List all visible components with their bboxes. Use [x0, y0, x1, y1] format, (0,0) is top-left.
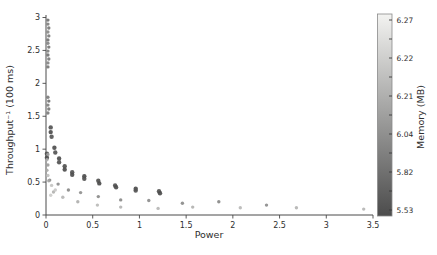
scatter-point	[46, 42, 49, 45]
scatter-point	[158, 191, 162, 195]
scatter-point	[156, 207, 159, 210]
colorbar-tick-label: 6.27	[397, 16, 414, 25]
scatter-point	[46, 53, 49, 56]
scatter-point	[265, 203, 268, 206]
scatter-point	[45, 169, 48, 172]
scatter-point	[46, 96, 49, 99]
colorbar-tick-label: 5.82	[397, 168, 414, 177]
colorbar-tick-label: 6.04	[397, 130, 414, 139]
scatter-point	[46, 38, 49, 41]
colorbar-tick-label: 5.53	[397, 206, 414, 215]
scatter-point	[46, 103, 49, 106]
scatter-point	[295, 206, 298, 209]
x-tick-label: 2	[230, 221, 235, 230]
scatter-point	[47, 179, 50, 182]
scatter-point	[46, 22, 49, 25]
scatter-point	[57, 156, 61, 160]
colorbar-tick-label: 6.22	[397, 54, 414, 63]
scatter-point	[82, 177, 86, 181]
scatter-point	[49, 130, 53, 134]
x-tick-label: 3	[324, 221, 329, 230]
scatter-point	[61, 196, 64, 199]
colorbar-tick-label: 6.21	[397, 92, 414, 101]
scatter-point	[114, 185, 118, 189]
scatter-point	[76, 200, 79, 203]
scatter-point	[47, 26, 50, 29]
y-axis-label: Throughput⁻¹ (100 ms)	[4, 65, 15, 176]
scatter-point	[46, 61, 49, 64]
y-tick-label: 0.5	[27, 178, 40, 187]
scatter-point	[79, 191, 82, 194]
y-tick-label: 0	[35, 211, 40, 220]
x-axis: 00.511.522.533.5	[43, 215, 379, 230]
y-axis: 00.511.522.53	[27, 13, 46, 220]
scatter-point	[46, 153, 49, 156]
scatter-point	[239, 206, 242, 209]
scatter-point	[119, 198, 122, 201]
scatter-point	[47, 45, 50, 48]
x-axis-label: Power	[195, 229, 224, 240]
scatter-point	[47, 34, 50, 37]
y-tick-label: 2.5	[27, 46, 40, 55]
scatter-point	[67, 188, 70, 191]
colorbar-label: Memory (MB)	[415, 85, 426, 149]
scatter-point	[50, 184, 53, 187]
scatter-point	[45, 158, 48, 161]
x-tick-label: 3.5	[367, 221, 380, 230]
scatter-point	[119, 205, 122, 208]
y-tick-label: 1	[35, 145, 40, 154]
scatter-point	[53, 150, 57, 154]
figure: 00.511.522.533.5 00.511.522.53 Power Thr…	[0, 0, 437, 255]
scatter-point	[46, 163, 49, 166]
scatter-point	[49, 194, 52, 197]
scatter-point	[181, 202, 184, 205]
scatter-point	[47, 57, 50, 60]
scatter-point	[46, 18, 49, 21]
x-tick-label: 2.5	[273, 221, 286, 230]
scatter-point	[97, 181, 101, 185]
scatter-point	[54, 188, 57, 191]
y-tick-label: 2	[35, 79, 40, 88]
scatter-point	[62, 167, 66, 171]
scatter-point	[47, 99, 50, 102]
scatter-point	[47, 107, 50, 110]
x-tick-label: 0.5	[86, 221, 99, 230]
scatter-plot: 00.511.522.533.5 00.511.522.53 Power Thr…	[0, 0, 437, 255]
scatter-point	[191, 205, 194, 208]
colorbar-ticks: 6.276.226.216.045.825.53	[389, 16, 413, 215]
scatter-point	[96, 203, 99, 206]
scatter-point	[134, 188, 138, 192]
scatter-point	[49, 135, 53, 139]
scatter-point	[56, 182, 59, 185]
x-tick-label: 1	[137, 221, 142, 230]
scatter-point	[147, 199, 150, 202]
scatter-point	[362, 207, 365, 210]
scatter-point	[49, 125, 53, 129]
scatter-point	[46, 49, 49, 52]
scatter-points	[45, 18, 366, 210]
scatter-point	[46, 65, 49, 68]
scatter-point	[57, 160, 61, 164]
scatter-point	[217, 200, 220, 203]
y-tick-label: 3	[35, 13, 40, 22]
colorbar: 6.276.226.216.045.825.53 Memory (MB)	[378, 14, 427, 216]
x-tick-label: 0	[43, 221, 48, 230]
scatter-point	[97, 195, 100, 198]
scatter-point	[46, 174, 49, 177]
scatter-point	[70, 173, 74, 177]
scatter-point	[52, 146, 56, 150]
scatter-point	[46, 30, 49, 33]
scatter-point	[46, 111, 49, 114]
y-tick-label: 1.5	[27, 112, 40, 121]
x-tick-label: 1.5	[180, 221, 193, 230]
